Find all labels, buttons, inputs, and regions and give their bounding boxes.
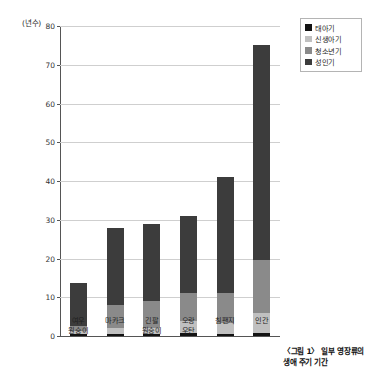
- y-tick-mark: [57, 297, 60, 298]
- legend-label-fetal: 태아기: [315, 23, 335, 33]
- legend-swatch-newborn: [305, 36, 312, 43]
- x-axis-line: [60, 336, 280, 337]
- y-tick-mark: [57, 65, 60, 66]
- x-category-label-2: 긴팔원숭이: [142, 316, 162, 335]
- x-category-label-3: 오랑우탄: [182, 316, 195, 335]
- y-tick-label: 40: [45, 177, 55, 186]
- legend-swatch-adolescent: [305, 47, 312, 54]
- gridline: [60, 297, 280, 298]
- figure-primate-life-cycle: (년수) 01020304050607080 여우원숭이마카크긴팔원숭이오랑우탄…: [0, 0, 383, 388]
- y-tick-mark: [57, 259, 60, 260]
- gridline: [60, 142, 280, 143]
- y-tick-mark: [57, 220, 60, 221]
- legend-label-newborn: 신생아기: [315, 34, 342, 44]
- gridline: [60, 26, 280, 27]
- legend-item-fetal: 태아기: [305, 23, 357, 32]
- gridline: [60, 181, 280, 182]
- gridline: [60, 104, 280, 105]
- bar-segment-3: [217, 177, 234, 293]
- legend: 태아기 신생아기 청소년기 성인기: [300, 18, 362, 72]
- legend-item-newborn: 신생아기: [305, 35, 357, 44]
- y-axis-unit-label: (년수): [22, 17, 41, 28]
- y-tick-label: 60: [45, 99, 55, 108]
- x-category-label-line: 원숭이: [142, 326, 162, 336]
- figure-caption: 〈그림 1〉 일부 영장류의 생애 주기 기간: [283, 347, 383, 368]
- legend-swatch-fetal: [305, 24, 312, 31]
- x-category-label-line: 원숭이: [68, 326, 88, 336]
- x-category-label-line: 우탄: [182, 326, 195, 336]
- caption-line-2: 생애 주기 기간: [283, 358, 383, 369]
- x-category-label-line: 마카크: [105, 316, 125, 326]
- plot-area: 01020304050607080: [60, 26, 280, 336]
- x-category-label-5: 인간: [255, 316, 268, 326]
- y-tick-mark: [57, 142, 60, 143]
- y-tick-mark: [57, 181, 60, 182]
- bar-segment-0: [217, 334, 234, 336]
- y-tick-label: 20: [45, 254, 55, 263]
- y-tick-label: 80: [45, 22, 55, 31]
- y-tick-label: 0: [50, 332, 55, 341]
- bar-segment-3: [107, 228, 124, 306]
- gridline: [60, 220, 280, 221]
- x-category-label-line: 여우: [68, 316, 88, 326]
- x-category-label-line: 침팬지: [215, 316, 235, 326]
- x-category-label-4: 침팬지: [215, 316, 235, 326]
- legend-label-adult: 성인기: [315, 57, 335, 67]
- x-category-label-line: 인간: [255, 316, 268, 326]
- gridline: [60, 65, 280, 66]
- y-tick-label: 10: [45, 293, 55, 302]
- y-tick-mark: [57, 26, 60, 27]
- x-category-label-0: 여우원숭이: [68, 316, 88, 335]
- y-tick-label: 30: [45, 215, 55, 224]
- gridline: [60, 259, 280, 260]
- legend-label-adolescent: 청소년기: [315, 46, 342, 56]
- y-tick-label: 50: [45, 138, 55, 147]
- y-tick-label: 70: [45, 60, 55, 69]
- bar-segment-0: [107, 334, 124, 336]
- bar-segment-3: [143, 224, 160, 302]
- x-category-label-line: 오랑: [182, 316, 195, 326]
- x-category-label-1: 마카크: [105, 316, 125, 326]
- bar-5: [253, 45, 270, 336]
- legend-item-adolescent: 청소년기: [305, 46, 357, 55]
- bar-segment-0: [253, 333, 270, 336]
- y-tick-mark: [57, 336, 60, 337]
- legend-item-adult: 성인기: [305, 58, 357, 67]
- bar-segment-3: [253, 45, 270, 260]
- bar-4: [217, 177, 234, 336]
- x-category-label-line: 긴팔: [142, 316, 162, 326]
- bar-segment-2: [253, 260, 270, 312]
- legend-swatch-adult: [305, 59, 312, 66]
- bar-segment-3: [180, 216, 197, 294]
- caption-line-1: 〈그림 1〉 일부 영장류의: [283, 347, 383, 358]
- y-tick-mark: [57, 104, 60, 105]
